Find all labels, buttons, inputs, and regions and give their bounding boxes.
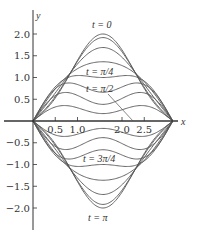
label-t-0: t = 0 <box>92 19 112 30</box>
curve-t-7-pi-16 <box>33 106 173 121</box>
x-axis-label: x <box>180 116 186 127</box>
label-t-3pi-4: t = 3π/4 <box>83 153 115 164</box>
y-tick-label: −2.0 <box>6 203 30 214</box>
y-tick-label: −1.0 <box>6 159 30 170</box>
curve-t-1-pi-16 <box>33 38 173 121</box>
y-tick-label: −0.5 <box>6 137 30 148</box>
y-tick-label: 1.0 <box>14 72 30 83</box>
x-ticks: 0.51.02.02.5 <box>47 117 152 135</box>
y-axis-label: y <box>35 10 41 21</box>
y-tick-label: −1.5 <box>6 181 30 192</box>
x-tick-label: 2.5 <box>136 124 152 135</box>
label-t-pi-2: t = π/2 <box>86 83 113 94</box>
x-tick-label: 2.0 <box>114 124 130 135</box>
label-t-pi: t = π <box>88 212 109 223</box>
x-tick-label: 1.0 <box>70 124 86 135</box>
wave-chart: 2.01.51.00.5−0.5−1.0−1.5−2.0 0.51.02.02.… <box>0 0 198 239</box>
label-t-pi-4: t = π/4 <box>86 66 113 77</box>
y-tick-label: 2.0 <box>14 29 30 40</box>
y-tick-label: 1.5 <box>14 50 30 61</box>
y-tick-label: 0.5 <box>14 94 30 105</box>
curve-t-6-pi-16 <box>33 92 173 121</box>
x-tick-label: 0.5 <box>47 124 63 135</box>
